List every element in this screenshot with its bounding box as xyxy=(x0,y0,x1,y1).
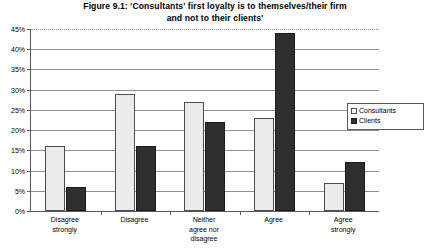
x-axis-category-label-line: agree nor xyxy=(169,225,239,235)
y-axis-tick-label: 5% xyxy=(15,187,25,194)
bar-consultants-1 xyxy=(45,146,65,211)
bar-consultants-2 xyxy=(115,94,135,211)
chart-title-line-1: Figure 9.1: 'Consultants' first loyalty … xyxy=(0,1,430,13)
legend-item-clients: Clients xyxy=(351,116,420,126)
bar-groups xyxy=(31,29,379,211)
bar-consultants-5 xyxy=(324,183,344,211)
y-axis-tick-label: 30% xyxy=(11,86,25,93)
y-axis-tick-label: 10% xyxy=(11,167,25,174)
bar-group xyxy=(31,29,101,211)
bar-group xyxy=(170,29,240,211)
x-axis-category-label-line: Agree xyxy=(308,215,378,225)
x-axis-category-label-line: Disagree xyxy=(100,215,170,225)
legend-label-consultants: Consultants xyxy=(359,107,396,115)
chart-figure: Figure 9.1: 'Consultants' first loyalty … xyxy=(0,0,430,250)
x-axis-category-label: Agreestrongly xyxy=(308,215,378,234)
page-title: Figure 9.1: 'Consultants' first loyalty … xyxy=(0,1,430,24)
legend-swatch-consultants-icon xyxy=(351,108,357,114)
bar-clients-3 xyxy=(205,122,225,211)
x-axis-category-label-line: disagree xyxy=(169,234,239,244)
x-axis-labels: DisagreestronglyDisagreeNeitheragree nor… xyxy=(30,215,378,249)
y-axis: 0%5%10%15%20%25%30%35%40%45% xyxy=(0,29,30,211)
x-axis-category-label-line: strongly xyxy=(30,225,100,235)
y-axis-tick-label: 45% xyxy=(11,26,25,33)
y-axis-tick-label: 15% xyxy=(11,147,25,154)
x-axis-category-label-line: Neither xyxy=(169,215,239,225)
x-axis-category-label-line: Disagree xyxy=(30,215,100,225)
legend-swatch-clients-icon xyxy=(351,118,357,124)
x-axis-category-label: Disagree xyxy=(100,215,170,225)
x-axis-category-label: Neitheragree nordisagree xyxy=(169,215,239,244)
y-axis-tick-label: 20% xyxy=(11,127,25,134)
y-axis-tick-label: 35% xyxy=(11,66,25,73)
y-axis-tick-label: 40% xyxy=(11,46,25,53)
x-axis-category-label-line: Agree xyxy=(239,215,309,225)
bar-clients-5 xyxy=(345,162,365,211)
legend-item-consultants: Consultants xyxy=(351,106,420,116)
bar-consultants-4 xyxy=(254,118,274,211)
bar-clients-2 xyxy=(136,146,156,211)
bar-clients-1 xyxy=(66,187,86,211)
bar-clients-4 xyxy=(275,33,295,211)
plot-area xyxy=(30,29,379,212)
chart-legend: Consultants Clients xyxy=(347,103,424,130)
x-axis-category-label-line: strongly xyxy=(308,225,378,235)
y-axis-tick-label: 0% xyxy=(15,208,25,215)
bar-consultants-3 xyxy=(184,102,204,211)
chart-title-line-2: and not to their clients' xyxy=(0,13,430,25)
bar-group xyxy=(101,29,171,211)
legend-label-clients: Clients xyxy=(359,117,380,125)
bar-group xyxy=(240,29,310,211)
x-axis-category-label: Disagreestrongly xyxy=(30,215,100,234)
x-axis-category-label: Agree xyxy=(239,215,309,225)
y-axis-tick-label: 25% xyxy=(11,106,25,113)
